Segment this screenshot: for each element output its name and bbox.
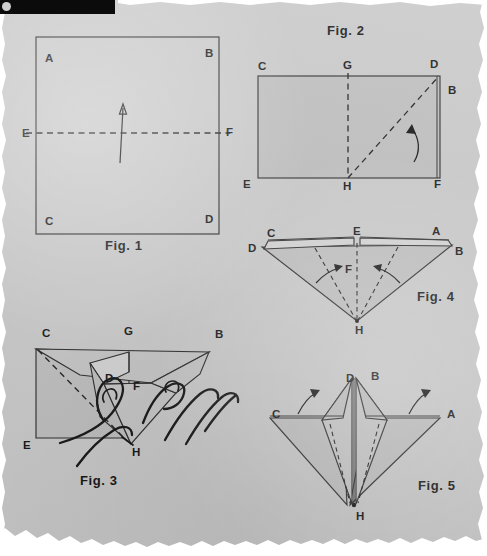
fig1-label-e: E bbox=[22, 128, 30, 140]
fig2-label-c: C bbox=[258, 61, 267, 73]
fig3-label-f: F bbox=[133, 381, 140, 393]
fig1-label-d: D bbox=[205, 214, 214, 226]
figure-2-caption: Fig. 2 bbox=[327, 24, 365, 37]
fig5-label-c: C bbox=[272, 409, 281, 421]
fig1-label-f: F bbox=[226, 127, 233, 139]
fig2-label-f: F bbox=[434, 179, 441, 191]
fig3-label-g: G bbox=[124, 326, 133, 338]
fig4-label-c: C bbox=[267, 228, 276, 240]
fig5-label-b: B bbox=[371, 371, 380, 383]
figure-5-diagram bbox=[0, 0, 487, 556]
fig4-label-h: H bbox=[355, 325, 364, 337]
fig4-label-b: B bbox=[455, 246, 464, 258]
fig5-label-d: D bbox=[346, 373, 355, 385]
fig1-label-a: A bbox=[45, 53, 54, 65]
fig3-label-b: B bbox=[215, 329, 224, 341]
fig3-label-e: E bbox=[23, 440, 31, 452]
fig4-label-e: E bbox=[353, 226, 361, 238]
scanned-page: A B C D E F C G D B E H F C G B D F E H … bbox=[0, 0, 487, 556]
fig3-label-c: C bbox=[42, 328, 51, 340]
fig4-label-d: D bbox=[248, 243, 257, 255]
fig5-label-a: A bbox=[447, 409, 456, 421]
fig2-label-b: B bbox=[448, 85, 457, 97]
fig3-label-d: D bbox=[105, 373, 114, 385]
figure-1-caption: Fig. 1 bbox=[105, 239, 143, 252]
figure-4-caption: Fig. 4 bbox=[417, 290, 455, 303]
fig2-label-d: D bbox=[430, 59, 439, 71]
fig4-label-f: F bbox=[345, 264, 352, 276]
figure-3-caption: Fig. 3 bbox=[80, 474, 118, 487]
figure-5-caption: Fig. 5 bbox=[418, 479, 456, 492]
fig5-point-h bbox=[352, 503, 356, 507]
scan-artifact-bar bbox=[0, 0, 115, 14]
fig5-label-h: H bbox=[356, 511, 365, 523]
fig1-label-c: C bbox=[45, 216, 54, 228]
fig2-label-e: E bbox=[243, 179, 251, 191]
fig1-label-b: B bbox=[205, 48, 214, 60]
fig3-label-h: H bbox=[132, 447, 141, 459]
fig2-label-h: H bbox=[343, 181, 352, 193]
fig2-label-g: G bbox=[343, 60, 352, 72]
fig4-label-a: A bbox=[432, 226, 441, 238]
